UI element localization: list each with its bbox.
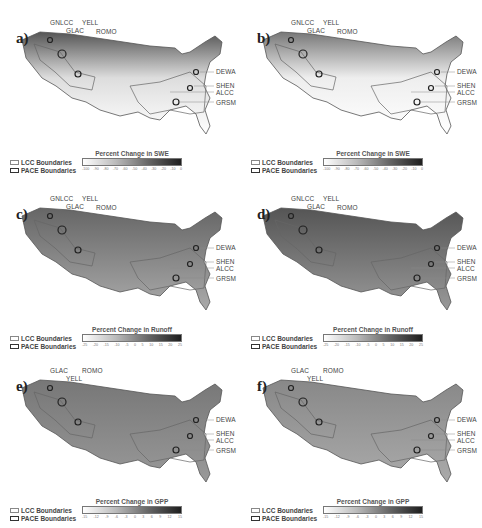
colorbar-title: Percent Change in Runoff (82, 326, 182, 333)
site-label: GLAC (307, 203, 325, 210)
colorbar-tick: 15 (419, 515, 423, 519)
colorbar-tick: 12 (409, 515, 413, 519)
colorbar-tick: 9 (159, 515, 161, 519)
site-label: YELL (82, 19, 98, 26)
colorbar-tick: -20 (402, 167, 407, 171)
colorbar-tick: -12 (335, 515, 340, 519)
colorbar-ticks: -25-20-15-10-50510152025 (323, 343, 423, 347)
lcc-swatch-icon (10, 336, 19, 341)
colorbar-tick: -15 (82, 515, 87, 519)
legend-lcc-label: LCC Boundaries (21, 159, 72, 166)
colorbar-tick: 25 (178, 343, 182, 347)
colorbar-ramp (82, 158, 182, 166)
site-label: GRSM (216, 275, 236, 282)
map-panel-e: e) GLAC YELL ROMO DEWA SHEN ALCC GRSM LC… (0, 350, 241, 526)
legend-pace-label: PACE Boundaries (262, 343, 317, 350)
colorbar-tick: -20 (161, 167, 166, 171)
colorbar-tick: 6 (151, 515, 153, 519)
colorbar-ramp (323, 158, 423, 166)
pace-swatch-icon (251, 344, 260, 349)
site-label: ROMO (337, 204, 358, 211)
colorbar-tick: -40 (142, 167, 147, 171)
us-map (0, 178, 241, 328)
colorbar-tick: -6 (115, 515, 118, 519)
colorbar-tick: -5 (366, 343, 369, 347)
colorbar-tick: -9 (105, 515, 108, 519)
colorbar-tick: -5 (125, 343, 128, 347)
colorbar-tick: 25 (419, 343, 423, 347)
panel-label: f) (257, 378, 267, 395)
site-label: SHEN (457, 82, 475, 89)
colorbar-tick: -30 (392, 167, 397, 171)
site-label: SHEN (457, 430, 475, 437)
site-label: GNLCC (50, 195, 73, 202)
colorbar: Percent Change in SWE -100-90-80-70-60-5… (323, 150, 423, 171)
colorbar-title: Percent Change in GPP (323, 498, 423, 505)
legend-pace-label: PACE Boundaries (21, 343, 76, 350)
lcc-swatch-icon (251, 160, 260, 165)
site-label: GNLCC (291, 19, 314, 26)
legend-pace-label: PACE Boundaries (262, 515, 317, 522)
map-panel-b: b) GNLCC GLAC YELL ROMO DEWA SHEN ALCC G… (241, 2, 482, 178)
colorbar-tick: -80 (103, 167, 108, 171)
colorbar-tick: 15 (178, 515, 182, 519)
site-label: GRSM (457, 447, 477, 454)
map-panel-a: a) GNLCC GLAC YELL ROMO DEWA SHEN ALCC G… (0, 2, 241, 178)
legend-lcc-label: LCC Boundaries (262, 507, 313, 514)
site-label: GRSM (216, 447, 236, 454)
site-label: GLAC (307, 27, 325, 34)
colorbar-tick: 0 (134, 515, 136, 519)
lcc-swatch-icon (10, 160, 19, 165)
colorbar-title: Percent Change in SWE (323, 150, 423, 157)
colorbar-tick: 0 (375, 515, 377, 519)
boundary-legend: LCC Boundaries PACE Boundaries (251, 334, 317, 350)
colorbar-tick: -3 (365, 515, 368, 519)
us-map (241, 2, 482, 152)
colorbar-tick: -100 (82, 167, 89, 171)
site-label: SHEN (216, 258, 234, 265)
site-label: SHEN (457, 258, 475, 265)
colorbar-tick: -25 (82, 343, 87, 347)
pace-swatch-icon (10, 516, 19, 521)
colorbar: Percent Change in GPP -15-12-9-6-3036912… (323, 498, 423, 519)
colorbar-tick: 20 (409, 343, 413, 347)
colorbar-tick: 15 (159, 343, 163, 347)
site-label: ROMO (82, 367, 103, 374)
map-panel-d: d) GNLCC GLAC YELL ROMO DEWA SHEN ALCC G… (241, 178, 482, 354)
colorbar: Percent Change in Runoff -25-20-15-10-50… (82, 326, 182, 347)
site-label: DEWA (457, 244, 477, 251)
colorbar-tick: -40 (383, 167, 388, 171)
colorbar-tick: -15 (104, 343, 109, 347)
boundary-legend: LCC Boundaries PACE Boundaries (251, 158, 317, 174)
colorbar-tick: -10 (114, 343, 119, 347)
boundary-legend: LCC Boundaries PACE Boundaries (10, 506, 76, 522)
site-label: ROMO (323, 367, 344, 374)
colorbar-tick: -50 (132, 167, 137, 171)
colorbar-tick: 3 (383, 515, 385, 519)
map-panel-c: c) GNLCC GLAC YELL ROMO DEWA SHEN ALCC G… (0, 178, 241, 354)
colorbar-ticks: -15-12-9-6-303691215 (323, 515, 423, 519)
colorbar-tick: -90 (335, 167, 340, 171)
colorbar-tick: -60 (122, 167, 127, 171)
colorbar-tick: -100 (323, 167, 330, 171)
colorbar-ramp (82, 506, 182, 514)
site-label: GRSM (457, 99, 477, 106)
us-map (241, 178, 482, 328)
colorbar-tick: -60 (363, 167, 368, 171)
boundary-legend: LCC Boundaries PACE Boundaries (251, 506, 317, 522)
site-label: YELL (323, 195, 339, 202)
legend-lcc-label: LCC Boundaries (21, 507, 72, 514)
colorbar-title: Percent Change in GPP (82, 498, 182, 505)
colorbar-ramp (82, 334, 182, 342)
colorbar-ticks: -100-90-80-70-60-50-40-30-20-100 (323, 167, 423, 171)
colorbar-title: Percent Change in Runoff (323, 326, 423, 333)
site-label: DEWA (216, 244, 236, 251)
site-label: ALCC (457, 265, 475, 272)
colorbar-tick: -25 (323, 343, 328, 347)
legend-pace-label: PACE Boundaries (21, 167, 76, 174)
site-label: ALCC (457, 89, 475, 96)
panel-label: c) (16, 206, 28, 223)
colorbar-tick: 5 (383, 343, 385, 347)
legend-lcc-label: LCC Boundaries (21, 335, 72, 342)
colorbar-tick: -10 (411, 167, 416, 171)
